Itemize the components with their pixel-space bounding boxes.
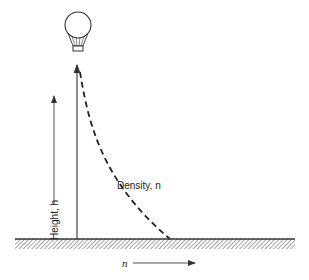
atmosphere-density-diagram: Height, h Density, n n <box>0 0 309 280</box>
ground <box>15 239 295 249</box>
density-curve-label: Density, n <box>117 180 161 191</box>
density-curve <box>80 72 170 239</box>
balloon-icon <box>65 12 91 51</box>
height-axis-label: Height, h <box>49 200 60 240</box>
x-axis-label: n <box>122 257 128 269</box>
